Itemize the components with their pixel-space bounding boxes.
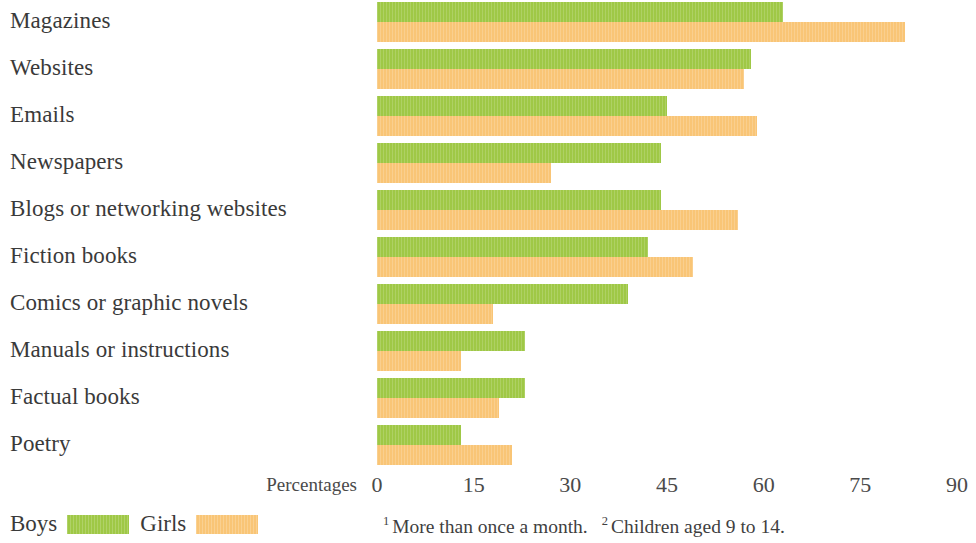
plot-area: MagazinesWebsitesEmailsNewspapersBlogs o… bbox=[0, 0, 976, 470]
x-axis-tick-label: 75 bbox=[849, 472, 871, 498]
bar-group bbox=[377, 143, 967, 183]
category-label: Comics or graphic novels bbox=[10, 282, 248, 323]
x-axis-tick-label: 15 bbox=[463, 472, 485, 498]
bar-boys bbox=[377, 96, 667, 116]
bar-group bbox=[377, 96, 967, 136]
x-axis-title: Percentages bbox=[266, 474, 357, 496]
bar-boys bbox=[377, 49, 751, 69]
footnote-text: More than once a month. bbox=[392, 516, 588, 537]
x-axis-tick-label: 0 bbox=[372, 472, 383, 498]
bar-boys bbox=[377, 190, 661, 210]
bar-group bbox=[377, 425, 967, 465]
bar-girls bbox=[377, 257, 693, 277]
legend-item: Boys bbox=[10, 511, 129, 537]
bar-boys bbox=[377, 143, 661, 163]
bar-chart: MagazinesWebsitesEmailsNewspapersBlogs o… bbox=[0, 0, 976, 543]
x-axis: Percentages 0153045607590 bbox=[0, 470, 976, 503]
category-label: Factual books bbox=[10, 376, 140, 417]
category-label: Newspapers bbox=[10, 141, 123, 182]
legend-item: Girls bbox=[140, 511, 258, 537]
footnotes: 1More than once a month.2Children aged 9… bbox=[383, 514, 799, 538]
bar-girls bbox=[377, 116, 757, 136]
category-row: Manuals or instructions bbox=[0, 329, 976, 376]
bar-girls bbox=[377, 351, 461, 371]
footnote-marker: 1 bbox=[383, 514, 389, 528]
bar-group bbox=[377, 49, 967, 89]
legend-label: Girls bbox=[140, 511, 186, 537]
bar-girls bbox=[377, 304, 493, 324]
bar-girls bbox=[377, 398, 499, 418]
category-row: Websites bbox=[0, 47, 976, 94]
bar-group bbox=[377, 2, 967, 42]
bar-girls bbox=[377, 210, 738, 230]
category-label: Manuals or instructions bbox=[10, 329, 230, 370]
category-label: Magazines bbox=[10, 0, 111, 41]
bar-group bbox=[377, 284, 967, 324]
category-row: Emails bbox=[0, 94, 976, 141]
bar-boys bbox=[377, 378, 525, 398]
bar-boys bbox=[377, 425, 461, 445]
category-label: Fiction books bbox=[10, 235, 137, 276]
footnote: 2Children aged 9 to 14. bbox=[602, 516, 785, 537]
bar-boys bbox=[377, 2, 783, 22]
bar-group bbox=[377, 237, 967, 277]
category-row: Factual books bbox=[0, 376, 976, 423]
footnote: 1More than once a month. bbox=[383, 516, 588, 537]
bar-boys bbox=[377, 331, 525, 351]
category-row: Newspapers bbox=[0, 141, 976, 188]
bar-group bbox=[377, 331, 967, 371]
bar-boys bbox=[377, 284, 628, 304]
legend-swatch-boys bbox=[67, 515, 129, 534]
category-label: Poetry bbox=[10, 423, 71, 464]
category-label: Emails bbox=[10, 94, 74, 135]
category-row: Magazines bbox=[0, 0, 976, 47]
bar-group bbox=[377, 190, 967, 230]
bar-girls bbox=[377, 22, 905, 42]
legend-label: Boys bbox=[10, 511, 57, 537]
footnote-marker: 2 bbox=[602, 514, 608, 528]
footnote-text: Children aged 9 to 14. bbox=[611, 516, 785, 537]
legend-swatch-girls bbox=[196, 515, 258, 534]
category-label: Blogs or networking websites bbox=[10, 188, 287, 229]
category-row: Fiction books bbox=[0, 235, 976, 282]
bar-girls bbox=[377, 69, 744, 89]
chart-footer: BoysGirls 1More than once a month.2Child… bbox=[0, 503, 976, 543]
legend: BoysGirls bbox=[10, 511, 258, 537]
x-axis-tick-label: 60 bbox=[753, 472, 775, 498]
x-axis-tick-label: 90 bbox=[946, 472, 968, 498]
category-row: Comics or graphic novels bbox=[0, 282, 976, 329]
bar-girls bbox=[377, 163, 551, 183]
bar-boys bbox=[377, 237, 648, 257]
bar-girls bbox=[377, 445, 512, 465]
category-label: Websites bbox=[10, 47, 93, 88]
category-row: Poetry bbox=[0, 423, 976, 470]
category-row: Blogs or networking websites bbox=[0, 188, 976, 235]
x-axis-tick-label: 45 bbox=[656, 472, 678, 498]
bar-group bbox=[377, 378, 967, 418]
x-axis-tick-label: 30 bbox=[559, 472, 581, 498]
